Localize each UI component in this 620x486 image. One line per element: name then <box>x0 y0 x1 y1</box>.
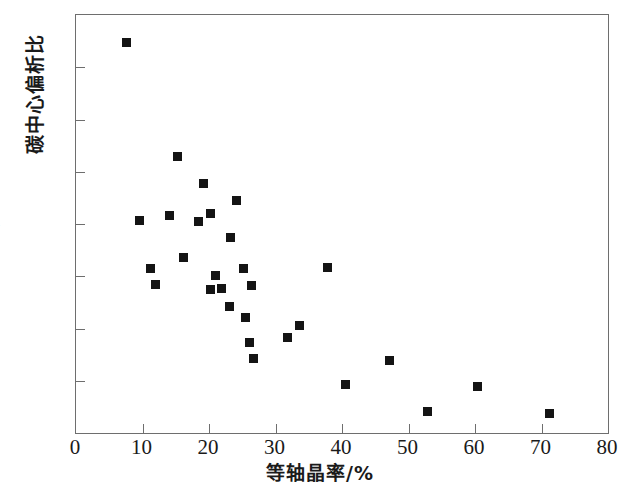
data-point <box>205 208 216 219</box>
data-point <box>224 301 235 312</box>
x-axis-tick-label: 40 <box>311 437 371 458</box>
y-axis-tick <box>76 276 85 277</box>
data-point <box>150 279 161 290</box>
data-point <box>472 381 483 392</box>
x-axis-tick-label: 70 <box>511 437 571 458</box>
x-axis-tick-label: 80 <box>577 437 620 458</box>
data-point <box>193 216 204 227</box>
y-axis-tick <box>76 224 85 225</box>
data-point <box>178 252 189 263</box>
data-point <box>225 232 236 243</box>
data-point <box>134 215 145 226</box>
x-axis-tick-label: 60 <box>444 437 504 458</box>
data-point <box>282 332 293 343</box>
data-point <box>422 406 433 417</box>
data-point <box>322 262 333 273</box>
x-axis-tick-label: 50 <box>378 437 438 458</box>
data-point <box>172 151 183 162</box>
x-axis-tick-label: 0 <box>45 437 105 458</box>
data-point <box>216 283 227 294</box>
data-point <box>340 379 351 390</box>
data-point <box>198 178 209 189</box>
data-point <box>205 284 216 295</box>
data-point <box>244 337 255 348</box>
data-point <box>231 195 242 206</box>
data-point <box>544 408 555 419</box>
data-point <box>246 280 257 291</box>
data-point <box>238 263 249 274</box>
y-axis-tick <box>76 329 85 330</box>
x-axis-title: 等轴晶率/% <box>0 458 620 485</box>
data-point <box>210 270 221 281</box>
scatter-chart-figure: 1.01.11.21.31.41.51.61.71.8 010203040506… <box>0 0 620 486</box>
x-axis-tick <box>276 424 277 433</box>
data-point <box>248 353 259 364</box>
y-axis-title-wrapper: 碳中心偏析比 <box>20 0 47 189</box>
y-axis-tick <box>76 172 85 173</box>
x-axis-tick <box>209 424 210 433</box>
y-axis-title: 碳中心偏析比 <box>24 34 46 154</box>
x-axis-tick <box>342 424 343 433</box>
x-axis-tick-label: 30 <box>245 437 305 458</box>
x-axis-tick-label: 20 <box>178 437 238 458</box>
x-axis-tick <box>143 424 144 433</box>
data-point <box>240 312 251 323</box>
data-point <box>384 355 395 366</box>
data-point <box>145 263 156 274</box>
y-axis-tick <box>76 120 85 121</box>
x-axis-tick <box>409 424 410 433</box>
x-axis-tick-label: 10 <box>112 437 172 458</box>
plot-area <box>75 14 609 434</box>
data-point <box>164 210 175 221</box>
y-axis-tick <box>76 67 85 68</box>
x-axis-tick <box>475 424 476 433</box>
data-point <box>294 320 305 331</box>
data-point <box>121 37 132 48</box>
x-axis-tick <box>542 424 543 433</box>
y-axis-tick <box>76 381 85 382</box>
